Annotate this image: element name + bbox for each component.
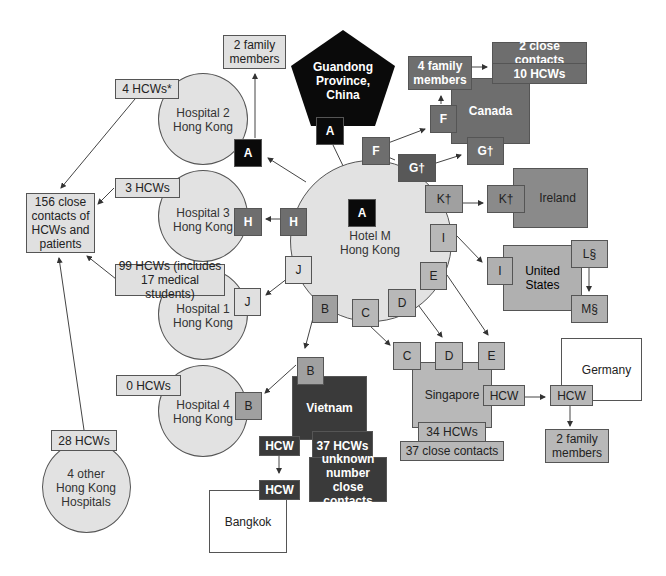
- singapore-hcw: 34 HCWs: [418, 422, 486, 442]
- usa-case-i: I: [487, 257, 513, 285]
- hospital-2-label-2: Hong Kong: [165, 120, 241, 134]
- hospital-4-label-1: Hospital 4: [165, 398, 241, 412]
- hospital-4-case-b: B: [235, 392, 262, 420]
- hotel-label-2: Hong Kong: [330, 243, 410, 257]
- hotel-case-b: B: [312, 295, 338, 323]
- vietnam-hcw-case: HCW: [259, 436, 300, 456]
- canada-case-g: G†: [467, 137, 504, 165]
- hotel-case-g: G†: [398, 154, 436, 182]
- hospital-2-label-1: Hospital 2: [165, 106, 241, 120]
- other-hospitals-hcw: 28 HCWs: [51, 430, 117, 451]
- hospital-4-label-2: Hong Kong: [165, 412, 241, 426]
- usa-case-l: L§: [571, 240, 608, 268]
- usa-case-m: M§: [571, 295, 608, 323]
- hospital-1-case-j: J: [234, 288, 261, 316]
- other-hospitals-label-2: Hong Kong: [46, 481, 126, 495]
- hotel-case-f: F: [362, 137, 390, 165]
- hotel-label-1: Hotel M: [330, 229, 410, 243]
- ireland-case-k: K†: [487, 185, 525, 213]
- germany-hcw-case: HCW: [550, 385, 593, 406]
- singapore-hcw-case: HCW: [483, 385, 525, 406]
- canada-case-f: F: [430, 105, 457, 133]
- singapore-close-contacts: 37 close contacts: [400, 441, 504, 461]
- hospital-4-hcw: 0 HCWs: [116, 375, 181, 396]
- hotel-case-d: D: [388, 289, 416, 317]
- hospital-1-label-1: Hospital 1: [165, 302, 241, 316]
- vietnam-unknown-contacts: unknown number close contacts: [309, 457, 387, 502]
- singapore-box: Singapore: [412, 362, 492, 428]
- singapore-case-d: D: [435, 342, 463, 370]
- bangkok-hcw-case: HCW: [259, 480, 300, 500]
- source-label: Guandong Province, China: [291, 60, 395, 102]
- singapore-case-e: E: [478, 342, 505, 370]
- hotel-case-i: I: [430, 224, 457, 252]
- hotel-case-e: E: [420, 262, 447, 290]
- hospital-1-label-2: Hong Kong: [165, 316, 241, 330]
- canada-family: 4 familymembers: [408, 56, 472, 90]
- hospital-1-hcw: 99 HCWs (includes17 medical students): [115, 264, 225, 296]
- singapore-case-c: C: [393, 342, 421, 370]
- hotel-case-k: K†: [425, 185, 463, 213]
- hospital-2-hcw: 4 HCWs*: [115, 79, 179, 99]
- hospital-3-case-h: H: [234, 208, 262, 236]
- vietnam-case-b: B: [297, 357, 324, 385]
- canada-hcw: 10 HCWs: [492, 63, 587, 84]
- hotel-case-c: C: [352, 299, 379, 327]
- other-hospitals-label-1: 4 other: [46, 467, 126, 481]
- source-case-a: A: [316, 117, 344, 145]
- hospital-3-label-2: Hong Kong: [165, 220, 241, 234]
- hospital-3-label-1: Hospital 3: [165, 206, 241, 220]
- other-hospitals-label-3: Hospitals: [46, 495, 126, 509]
- canada-close-contacts: 2 close contacts: [492, 42, 587, 64]
- hospital-2-family: 2 familymembers: [223, 35, 286, 69]
- hospital-2-case-a: A: [234, 139, 262, 167]
- source-guangdong: Guandong Province, China: [291, 30, 395, 126]
- close-contacts-156: 156 close contacts of HCWs and patients: [26, 193, 95, 253]
- hospital-3-hcw: 3 HCWs: [115, 178, 180, 198]
- hotel-case-j: J: [285, 256, 312, 284]
- hotel-case-a: A: [348, 199, 376, 227]
- hotel-case-h: H: [280, 208, 307, 236]
- germany-family: 2 familymembers: [545, 429, 609, 463]
